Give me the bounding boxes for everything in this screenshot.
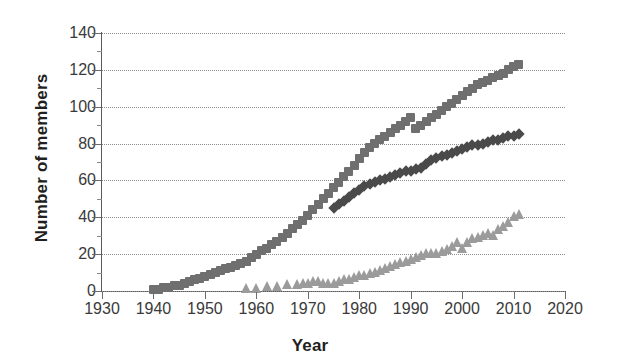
data-point-square: [406, 113, 415, 122]
data-point-triangle: [514, 209, 524, 219]
y-tick-label-0: 0: [50, 282, 96, 300]
y-tick-label-80: 80: [50, 135, 96, 153]
y-minor-tick-110: [97, 88, 102, 89]
y-minor-tick-70: [97, 162, 102, 163]
x-tick-2020: [565, 292, 566, 299]
x-tick-1990: [411, 292, 412, 299]
data-point-triangle: [262, 281, 272, 291]
x-tick-1930: [102, 292, 103, 299]
y-tick-label-120: 120: [50, 61, 96, 79]
x-tick-1940: [153, 292, 154, 299]
y-tick-label-20: 20: [50, 245, 96, 263]
y-axis-tick-labels: 020406080100120140: [46, 33, 96, 291]
x-axis-title: Year: [0, 336, 620, 356]
y-minor-tick-30: [97, 236, 102, 237]
y-tick-120: [92, 70, 101, 71]
y-tick-label-40: 40: [50, 208, 96, 226]
y-tick-100: [92, 107, 101, 108]
data-point-triangle: [282, 279, 292, 289]
data-point-square: [514, 60, 523, 69]
y-tick-0: [92, 291, 101, 292]
gridline-y-140: [102, 33, 565, 34]
y-tick-60: [92, 180, 101, 181]
gridline-y-20: [102, 254, 565, 255]
y-tick-40: [92, 217, 101, 218]
x-tick-label-2020: 2020: [535, 300, 595, 318]
plot-area: [102, 33, 565, 291]
y-minor-tick-50: [97, 199, 102, 200]
x-tick-1970: [308, 292, 309, 299]
x-tick-1950: [205, 292, 206, 299]
x-axis-tick-labels: 1930194019501960197019801990200020102020: [0, 300, 620, 324]
x-tick-2000: [462, 292, 463, 299]
gridline-y-40: [102, 217, 565, 218]
y-minor-tick-130: [97, 51, 102, 52]
x-axis-ticks: [102, 292, 566, 300]
y-tick-140: [92, 33, 101, 34]
x-tick-2010: [514, 292, 515, 299]
y-tick-80: [92, 144, 101, 145]
y-minor-tick-10: [97, 273, 102, 274]
y-tick-label-100: 100: [50, 98, 96, 116]
y-tick-label-60: 60: [50, 171, 96, 189]
y-tick-label-140: 140: [50, 24, 96, 42]
x-tick-1960: [256, 292, 257, 299]
chart-figure: Number of members 020406080100120140 193…: [0, 0, 620, 364]
data-point-triangle: [272, 281, 282, 291]
y-minor-tick-90: [97, 125, 102, 126]
gridline-y-100: [102, 107, 565, 108]
y-tick-20: [92, 254, 101, 255]
x-tick-1980: [359, 292, 360, 299]
